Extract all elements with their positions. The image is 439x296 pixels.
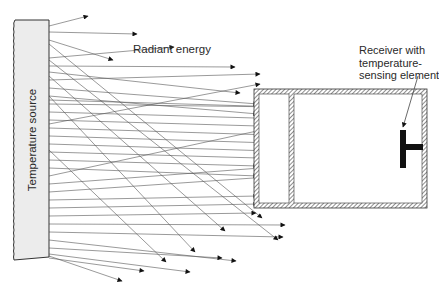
receiver-label-line-2: temperature- (359, 57, 439, 70)
ray-arrow (49, 96, 195, 252)
ray-arrow (49, 256, 122, 281)
ray-arrow (49, 16, 88, 26)
receiver-label-line-1: Receiver with (359, 44, 439, 57)
ray-arrow (49, 232, 283, 237)
ray-arrow (49, 74, 260, 80)
receiver-label-line-3: sensing element (359, 69, 439, 82)
source-label: Temperature source (26, 89, 38, 191)
ray-arrow (49, 213, 256, 216)
receiver-label: Receiver with temperature- sensing eleme… (359, 44, 439, 82)
ray-arrow (49, 104, 286, 107)
ray-arrow (49, 32, 137, 34)
ray-arrow (49, 44, 262, 218)
ray-arrow (49, 160, 258, 166)
ray-arrow (49, 224, 285, 225)
radiant-energy-label: Radiant energy (133, 43, 211, 56)
